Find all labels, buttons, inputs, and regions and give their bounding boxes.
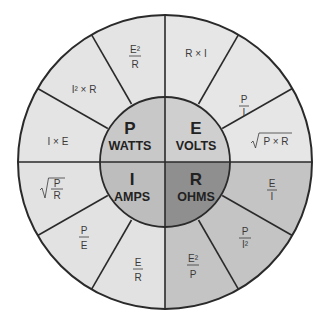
svg-text:E: E <box>81 240 88 251</box>
ohms-law-wheel: P WATTS E VOLTS I AMPS R OHMS R × I P I … <box>0 0 332 323</box>
svg-text:R: R <box>134 272 141 283</box>
current-symbol: I <box>130 170 135 189</box>
power-unit: WATTS <box>109 139 152 153</box>
svg-text:E²: E² <box>130 44 141 55</box>
svg-text:R: R <box>131 59 138 70</box>
svg-text:P: P <box>241 94 248 105</box>
formula-p-i-times-e: I × E <box>48 136 69 147</box>
svg-text:P × R: P × R <box>263 136 288 147</box>
svg-text:P: P <box>190 269 197 280</box>
current-unit: AMPS <box>114 190 150 204</box>
svg-text:I: I <box>271 191 274 202</box>
resistance-symbol: R <box>190 170 202 189</box>
svg-text:E²: E² <box>188 253 199 264</box>
svg-text:P: P <box>81 225 88 236</box>
svg-text:P: P <box>54 178 61 189</box>
formula-e-r-times-i: R × I <box>185 48 206 59</box>
voltage-unit: VOLTS <box>176 139 217 153</box>
core-circle <box>100 97 230 227</box>
power-symbol: P <box>124 119 135 138</box>
voltage-symbol: E <box>190 119 201 138</box>
svg-text:E: E <box>269 178 276 189</box>
svg-text:E: E <box>135 257 142 268</box>
svg-text:I²: I² <box>242 239 249 250</box>
svg-text:I: I <box>243 107 246 118</box>
svg-text:R: R <box>53 190 60 201</box>
formula-p-i-squared-times-r: I² × R <box>72 84 97 95</box>
svg-text:P: P <box>242 226 249 237</box>
resistance-unit: OHMS <box>177 190 215 204</box>
